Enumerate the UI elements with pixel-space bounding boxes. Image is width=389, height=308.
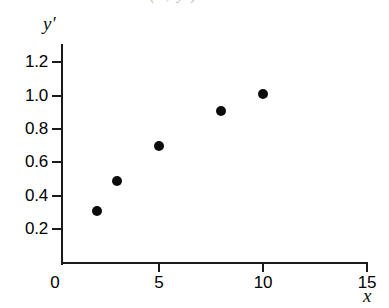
x-tick-label-wrap: 0 [35, 274, 75, 292]
y-axis-line [61, 44, 63, 265]
y-tick-label-wrap: 0.2 [0, 220, 48, 237]
y-tick-mark [52, 95, 62, 97]
y-tick-mark [52, 195, 62, 197]
y-tick-label: 1.0 [4, 87, 48, 104]
x-tick-label-wrap: 10 [243, 274, 283, 292]
x-tick-mark [158, 262, 160, 272]
y-tick-label: 0.2 [4, 220, 48, 237]
data-point [154, 141, 164, 151]
y-axis-title: y' [43, 14, 56, 33]
y-tick-mark [52, 128, 62, 130]
x-tick-label: 10 [254, 273, 273, 292]
scatter-plot-figure: (x, y') y' x 0.20.40.60.81.01.2 051015 [0, 0, 389, 308]
y-tick-label-wrap: 1.2 [0, 53, 48, 70]
caption-bleed-text: (x, y') [150, 0, 260, 3]
y-tick-label-wrap: 1.0 [0, 87, 48, 104]
y-tick-label-wrap: 0.6 [0, 153, 48, 170]
y-tick-label: 0.8 [4, 120, 48, 137]
data-point [112, 176, 122, 186]
x-tick-label: 15 [358, 273, 377, 292]
x-tick-label-wrap: 5 [139, 274, 179, 292]
y-tick-label: 0.6 [4, 153, 48, 170]
y-tick-mark [52, 228, 62, 230]
x-tick-mark [262, 262, 264, 272]
y-tick-label-wrap: 0.4 [0, 187, 48, 204]
y-tick-mark [52, 161, 62, 163]
y-tick-label-wrap: 0.8 [0, 120, 48, 137]
data-point [258, 89, 268, 99]
x-tick-label: 0 [50, 273, 59, 292]
x-axis-line [61, 262, 368, 264]
x-tick-label: 5 [154, 273, 163, 292]
y-tick-mark [52, 61, 62, 63]
y-tick-label: 1.2 [4, 53, 48, 70]
data-point [92, 206, 102, 216]
x-tick-label-wrap: 15 [347, 274, 387, 292]
y-tick-label: 0.4 [4, 187, 48, 204]
data-point [216, 106, 226, 116]
x-tick-mark [366, 262, 368, 272]
